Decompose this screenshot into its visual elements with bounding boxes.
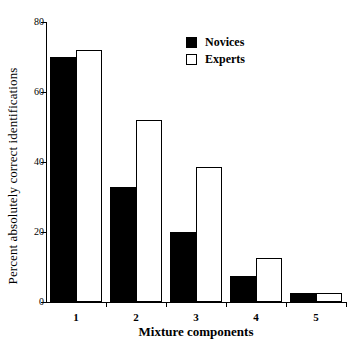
- legend: Novices Experts: [186, 36, 245, 65]
- bar-novices-5: [290, 293, 316, 302]
- bar-experts-2: [136, 120, 162, 302]
- x-tick-mark: [286, 302, 287, 307]
- y-tick-label: 20: [4, 227, 44, 237]
- x-tick-label: 4: [241, 312, 271, 323]
- bar-experts-4: [256, 258, 282, 302]
- bar-novices-2: [110, 187, 136, 303]
- bar-experts-5: [316, 293, 342, 302]
- bar-experts-1: [76, 50, 102, 302]
- bar-novices-4: [230, 276, 256, 302]
- chart-figure: Percent absolutely correct identificatio…: [0, 0, 361, 352]
- bar-novices-3: [170, 232, 196, 302]
- x-tick-mark: [106, 302, 107, 307]
- legend-label-novices: Novices: [205, 36, 244, 48]
- y-tick-label: 0: [4, 297, 44, 307]
- x-tick-label: 1: [61, 312, 91, 323]
- x-axis-title: Mixture components: [46, 324, 346, 340]
- legend-swatch-open-square-icon: [186, 54, 197, 65]
- x-tick-label: 2: [121, 312, 151, 323]
- x-tick-label: 3: [181, 312, 211, 323]
- x-tick-label: 5: [301, 312, 331, 323]
- legend-item-experts: Experts: [186, 53, 245, 65]
- x-axis-line: [46, 302, 346, 303]
- bar-experts-3: [196, 167, 222, 302]
- x-tick-mark: [346, 302, 347, 307]
- legend-item-novices: Novices: [186, 36, 245, 48]
- bar-novices-1: [50, 57, 76, 302]
- y-tick-label: 60: [4, 87, 44, 97]
- y-tick-label: 40: [4, 157, 44, 167]
- x-tick-mark: [166, 302, 167, 307]
- legend-label-experts: Experts: [205, 53, 245, 65]
- legend-swatch-filled-square-icon: [186, 37, 197, 48]
- x-tick-mark: [226, 302, 227, 307]
- y-tick-label: 80: [4, 17, 44, 27]
- y-axis-line: [46, 22, 47, 302]
